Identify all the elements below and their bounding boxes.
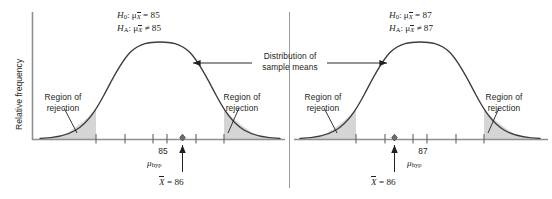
left-panel-mu-hyp: μhyp [147,158,162,171]
right-rejection-right-line1: Region of [468,92,540,103]
left-null-relation: = [141,10,151,20]
left-panel-rejection-shading [42,109,278,139]
right-panel-rejection-shading [302,109,538,139]
right-panel-rejection-label-left: Region of rejection [288,92,358,113]
right-rejection-left-line2: rejection [288,103,358,114]
left-xbar-symbol: X [159,177,165,189]
right-null-value: 87 [423,10,432,20]
left-null-hypothesis: H0: μX = 85 [117,10,161,23]
left-null-h: H [117,10,124,20]
left-rejection-left-line1: Region of [28,92,98,103]
left-rejection-right-line1: Region of [207,92,277,103]
right-alt-param-sub: X [410,24,414,36]
right-xbar-value: 86 [386,177,395,187]
left-panel-center-tick-label: 85 [146,146,180,157]
left-alt-hypothesis: HA: μX ≠ 85 [117,23,161,36]
left-null-value: 85 [151,10,160,20]
right-alt-relation: ≠ [414,23,424,33]
left-rejection-left-line2: rejection [28,103,98,114]
left-alt-h: H [117,23,124,33]
right-rejection-left-line1: Region of [288,92,358,103]
left-panel-rejection-label-right: Region of rejection [207,92,277,113]
left-alt-colon-mu: : μ [128,23,138,33]
right-alt-value: 87 [424,23,433,33]
left-mu-subscript: hyp [152,161,162,168]
right-xbar-symbol: X [371,177,377,189]
right-alt-h: H [389,23,396,33]
right-null-param-sub: X [409,11,413,23]
left-panel-sample-mean-label: X = 86 [159,177,184,189]
right-panel-center-tick-label: 87 [406,146,440,157]
distribution-annotation-line2: sample means [229,62,351,73]
sample-mean-arrows [183,145,395,172]
left-alt-value: 85 [152,23,161,33]
left-panel-hypotheses: H0: μX = 85 HA: μX ≠ 85 [117,10,161,36]
right-xbar-relation: = [377,177,387,187]
right-alt-colon-mu: : μ [400,23,410,33]
left-panel-rejection-label-left: Region of rejection [28,92,98,113]
right-panel-hypotheses: H0: μX = 87 HA: μX ≠ 87 [389,10,433,36]
y-axis-label: Relative frequency [14,59,24,130]
right-panel-sample-mean-label: X = 86 [371,177,396,189]
left-alt-relation: ≠ [142,23,152,33]
left-alt-param-sub: X [138,24,142,36]
right-null-hypothesis: H0: μX = 87 [389,10,433,23]
right-rejection-right-line2: rejection [468,103,540,114]
right-null-colon-mu: : μ [399,10,409,20]
figure-two-sampling-distributions: Relative frequency H0: μX = 85 HA: μX ≠ … [0,0,552,199]
rejection-leader-lines [64,108,499,133]
left-rejection-right-line2: rejection [207,103,277,114]
left-xbar-value: 86 [174,177,183,187]
left-null-param-sub: X [137,11,141,23]
right-panel-mu-hyp: μhyp [407,158,422,171]
left-null-colon-mu: : μ [127,10,137,20]
right-mu-subscript: hyp [412,161,422,168]
right-null-relation: = [413,10,423,20]
distribution-annotation-line1: Distribution of [229,51,351,62]
left-xbar-relation: = [165,177,175,187]
right-null-h: H [389,10,396,20]
distribution-annotation: Distribution of sample means [229,51,351,72]
right-alt-hypothesis: HA: μX ≠ 87 [389,23,433,36]
right-panel-rejection-label-right: Region of rejection [468,92,540,113]
